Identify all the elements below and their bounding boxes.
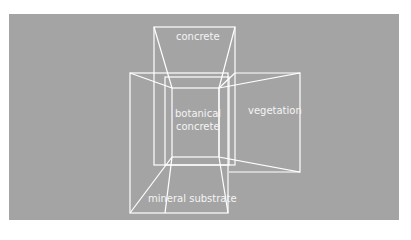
label-botanical: botanical [175,108,221,120]
label-botanical-concrete: concrete [176,121,220,133]
concrete-frame [154,27,235,165]
label-vegetation: vegetation [248,105,302,117]
label-concrete: concrete [176,31,220,43]
label-mineral-substrate: mineral substrate [148,193,237,205]
vegetation-face [219,73,300,172]
mineral-frame [130,73,228,213]
